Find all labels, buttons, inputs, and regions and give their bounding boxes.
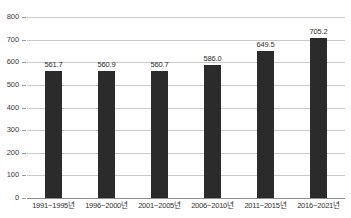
bar [310, 38, 327, 198]
gridline [27, 85, 345, 86]
bar-value-label: 586.0 [191, 55, 235, 63]
bar-value-label: 705.2 [297, 28, 341, 36]
y-axis-tick-label: 700 [0, 36, 19, 44]
y-axis-tick-label: 100 [0, 171, 19, 179]
y-axis-tick-mark [22, 62, 26, 63]
gridline [27, 175, 345, 176]
y-axis-tick-mark [22, 175, 26, 176]
gridline [27, 17, 345, 18]
y-axis-tick-label: 800 [0, 13, 19, 21]
bar [45, 71, 62, 198]
axis-baseline [27, 198, 345, 199]
gridline [27, 40, 345, 41]
plot-area: 561.7560.9560.7586.0649.5705.2 [27, 17, 345, 198]
y-axis-tick-label: 200 [0, 149, 19, 157]
y-axis-tick-label: 500 [0, 81, 19, 89]
bar [151, 71, 168, 198]
bar-value-label: 560.7 [138, 61, 182, 69]
gridline [27, 130, 345, 131]
y-axis-tick-mark [22, 130, 26, 131]
bar-chart: 8007006005004003002001000 561.7560.9560.… [0, 0, 351, 218]
y-axis-tick-mark [22, 17, 26, 18]
bar-value-label: 560.9 [85, 61, 129, 69]
y-axis-tick-mark [22, 108, 26, 109]
y-axis-tick-label: 600 [0, 58, 19, 66]
bar-value-label: 649.5 [244, 41, 288, 49]
y-axis-tick-mark [22, 85, 26, 86]
y-axis-tick-label: 300 [0, 126, 19, 134]
x-axis-tick-label: 2016~2021년 [288, 202, 350, 210]
y-axis-tick-mark [22, 153, 26, 154]
bar [98, 71, 115, 198]
y-axis-tick-label: 400 [0, 104, 19, 112]
bar-value-label: 561.7 [32, 61, 76, 69]
bar [257, 51, 274, 198]
y-axis-tick-label: 0 [0, 194, 19, 202]
x-axis-labels: 1991~1995년1996~2000년2001~2005년2006~2010년… [0, 202, 351, 216]
y-axis-tick-mark [22, 198, 26, 199]
gridline [27, 108, 345, 109]
y-axis-tick-mark [22, 40, 26, 41]
bar [204, 65, 221, 198]
gridline [27, 153, 345, 154]
